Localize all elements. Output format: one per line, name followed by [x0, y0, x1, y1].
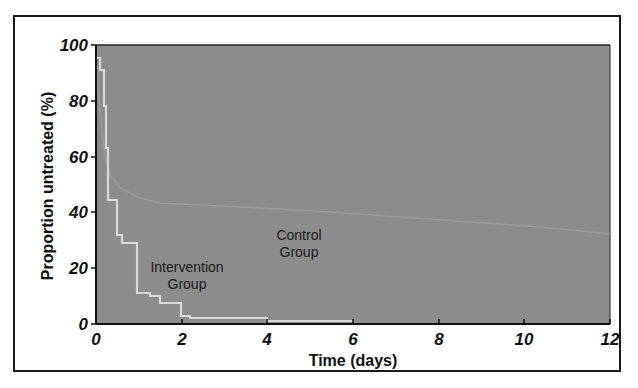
- x-tick-2: 2: [176, 330, 187, 349]
- x-tick-0: 0: [91, 330, 101, 349]
- intervention-annotation-line1: Intervention: [150, 259, 223, 275]
- y-tick-80: 80: [69, 92, 88, 111]
- y-tick-40: 40: [68, 203, 88, 222]
- x-tick-10: 10: [515, 330, 534, 349]
- x-tick-6: 6: [348, 330, 358, 349]
- y-tick-20: 20: [68, 259, 88, 278]
- x-tick-12: 12: [601, 330, 620, 349]
- y-axis-title: Proportion untreated (%): [39, 92, 56, 280]
- y-tick-60: 60: [69, 148, 88, 167]
- intervention-annotation-line2: Group: [168, 276, 207, 292]
- y-tick-100: 100: [60, 36, 89, 55]
- control-annotation-line1: Control: [276, 227, 321, 243]
- x-tick-4: 4: [261, 330, 272, 349]
- x-axis-title: Time (days): [309, 352, 398, 369]
- y-tick-0: 0: [79, 315, 89, 334]
- control-annotation-line2: Group: [280, 244, 319, 260]
- x-tick-8: 8: [434, 330, 444, 349]
- km-chart: 0 20 40 60 80 100 0 2 4 6 8 10 12 Time (…: [0, 0, 638, 388]
